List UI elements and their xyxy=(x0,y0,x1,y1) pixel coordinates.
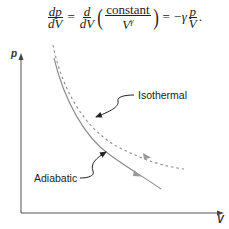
y-axis-label: p xyxy=(11,48,17,59)
isothermal-curve xyxy=(53,45,184,169)
isothermal-label: Isothermal xyxy=(138,89,187,101)
adiabatic-pointer-icon xyxy=(80,152,106,178)
adiabatic-direction-arrow-icon xyxy=(133,170,141,177)
isothermal-pointer-icon xyxy=(96,95,134,117)
x-axis-label: V xyxy=(217,214,224,225)
isothermal-direction-arrow-icon xyxy=(143,153,151,160)
adiabatic-curve xyxy=(54,58,161,189)
pv-diagram xyxy=(0,0,229,229)
adiabatic-label: Adiabatic xyxy=(34,172,77,184)
y-axis-arrow-icon xyxy=(19,53,24,60)
